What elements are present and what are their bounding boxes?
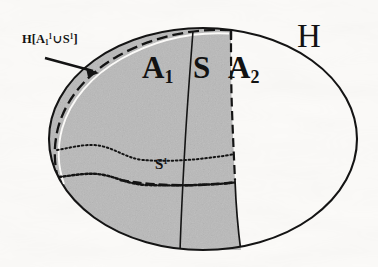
region-label-S: S: [193, 52, 210, 83]
callout-label-H-A1-union-S1: H[A11∪S1]: [22, 33, 78, 46]
figure-canvas: A1 S A2 H S1 H[A11∪S1]: [0, 0, 378, 267]
band-label-S1: S1: [155, 157, 168, 172]
region-label-A2: A2: [228, 52, 259, 83]
region-label-A1: A1: [142, 52, 173, 83]
region-label-H: H: [297, 20, 321, 53]
